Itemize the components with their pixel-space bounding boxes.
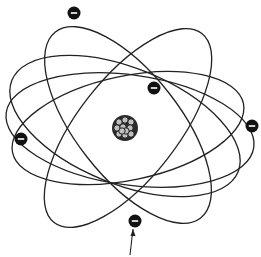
electron [68, 7, 81, 20]
atom-diagram [0, 0, 261, 257]
electron [129, 215, 142, 228]
pointer-arrow [130, 229, 136, 255]
nucleus [112, 115, 138, 141]
electron [148, 82, 161, 95]
electron [246, 120, 259, 133]
arrow-head-icon [131, 229, 136, 236]
electron-group [15, 7, 259, 228]
electron [15, 133, 28, 146]
nucleon [128, 119, 134, 125]
nucleon [122, 117, 128, 123]
nucleon [119, 128, 125, 134]
